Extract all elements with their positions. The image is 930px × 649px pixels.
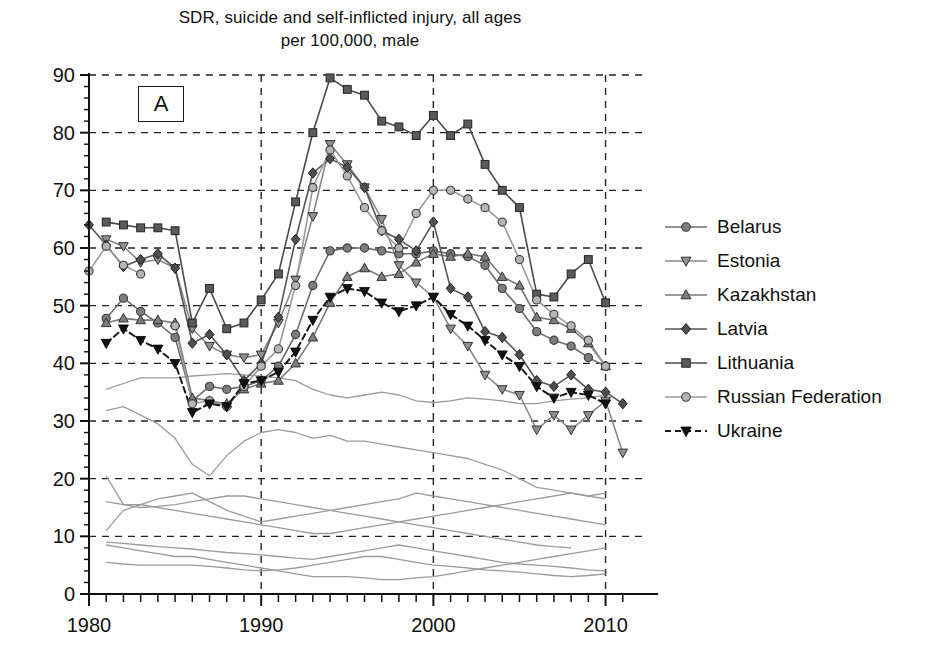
marker-circle: [481, 261, 489, 269]
legend-item-lithuania[interactable]: Lithuania: [663, 346, 925, 380]
datapoint-russian-federation-2007: [550, 310, 558, 318]
datapoint-russian-federation-1995: [343, 172, 351, 180]
datapoint-russian-federation-2006: [533, 296, 541, 304]
legend-label: Kazakhstan: [717, 284, 816, 306]
marker-circle: [550, 336, 558, 344]
marker-triangle-up: [342, 272, 352, 281]
datapoint-kazakhstan-1982: [119, 313, 129, 322]
marker-triangle-up: [394, 269, 404, 278]
legend-key-svg: [663, 285, 709, 305]
panel-label-text: A: [154, 91, 169, 117]
marker-circle-light: [412, 209, 420, 217]
legend-item-kazakhstan[interactable]: Kazakhstan: [663, 278, 925, 312]
legend-marker-glyph: [681, 324, 690, 335]
datapoint-estonia-2005: [515, 391, 525, 400]
datapoint-lithuania-1988: [223, 325, 231, 333]
marker-square: [188, 319, 196, 327]
legend-marker-glyph: [682, 223, 691, 232]
datapoint-lithuania-1994: [326, 74, 334, 82]
marker-circle: [360, 244, 368, 252]
datapoint-russian-federation-1990: [257, 362, 265, 370]
marker-circle-light: [171, 322, 179, 330]
marker-diamond: [291, 234, 300, 244]
legend-label: Ukraine: [717, 420, 782, 442]
marker-diamond: [618, 399, 627, 409]
marker-triangle-down-filled: [101, 339, 111, 348]
background-line-8: [106, 545, 605, 580]
marker-circle: [205, 382, 213, 390]
datapoint-kazakhstan-1993: [308, 332, 318, 341]
datapoint-latvia-2002: [463, 292, 472, 302]
datapoint-russian-federation-1997: [378, 227, 386, 235]
legend-item-russian-federation[interactable]: Russian Federation: [663, 380, 925, 414]
marker-square: [343, 86, 351, 94]
datapoint-kazakhstan-1996: [360, 263, 370, 272]
datapoint-belarus-2007: [550, 336, 558, 344]
marker-triangle-up: [532, 312, 542, 321]
legend-item-belarus[interactable]: Belarus: [663, 210, 925, 244]
datapoint-belarus-1995: [343, 244, 351, 252]
x-tick-label-1990: 1990: [239, 614, 284, 636]
marker-square: [326, 74, 334, 82]
marker-triangle-up: [463, 249, 473, 258]
legend-marker-triangle-down-icon: [663, 251, 709, 271]
datapoint-russian-federation-1993: [309, 183, 317, 191]
marker-circle: [309, 281, 317, 289]
marker-triangle-down-filled: [153, 345, 163, 354]
datapoint-russian-federation-1992: [292, 281, 300, 289]
marker-circle: [343, 244, 351, 252]
legend-key-svg: [663, 421, 709, 441]
marker-circle-light: [292, 281, 300, 289]
marker-triangle-down: [308, 213, 318, 222]
datapoint-ukraine-1982: [118, 325, 128, 334]
datapoint-lithuania-1981: [102, 218, 110, 226]
legend-item-estonia[interactable]: Estonia: [663, 244, 925, 278]
x-tick-label-2000: 2000: [411, 614, 456, 636]
datapoint-latvia-2003: [481, 326, 490, 336]
marker-triangle-up: [515, 280, 525, 289]
legend-item-latvia[interactable]: Latvia: [663, 312, 925, 346]
datapoint-russian-federation-2000: [429, 186, 437, 194]
marker-triangle-up: [360, 263, 370, 272]
legend-item-ukraine[interactable]: Ukraine: [663, 414, 925, 448]
marker-square: [309, 129, 317, 137]
chart-legend: BelarusEstoniaKazakhstanLatviaLithuaniaR…: [663, 210, 925, 448]
marker-triangle-down-filled: [532, 383, 542, 392]
datapoint-lithuania-1984: [154, 224, 162, 232]
y-tick-label-10: 10: [53, 525, 75, 547]
y-tick-label-70: 70: [53, 179, 75, 201]
datapoint-latvia-2000: [429, 217, 438, 227]
marker-square: [584, 256, 592, 264]
datapoint-belarus-2004: [498, 284, 506, 292]
datapoint-lithuania-1990: [257, 296, 265, 304]
background-line-7: [106, 557, 605, 577]
datapoint-lithuania-2008: [567, 270, 575, 278]
datapoint-russian-federation-1981: [102, 242, 110, 250]
marker-square: [154, 224, 162, 232]
marker-circle: [223, 385, 231, 393]
marker-square: [137, 224, 145, 232]
marker-circle-light: [567, 322, 575, 330]
legend-marker-triangle-down-filled-icon: [663, 421, 709, 441]
datapoint-belarus-1987: [205, 382, 213, 390]
marker-triangle-down: [463, 342, 473, 351]
datapoint-lithuania-1993: [309, 129, 317, 137]
datapoint-lithuania-1995: [343, 86, 351, 94]
datapoint-russian-federation-2009: [584, 336, 592, 344]
y-tick-label-30: 30: [53, 410, 75, 432]
marker-circle-light: [257, 362, 265, 370]
y-tick-label-60: 60: [53, 237, 75, 259]
legend-key-svg: [663, 387, 709, 407]
marker-square: [395, 123, 403, 131]
datapoint-kazakhstan-1995: [342, 272, 352, 281]
datapoint-estonia-1993: [308, 213, 318, 222]
datapoint-ukraine-1985: [170, 360, 180, 369]
y-tick-label-40: 40: [53, 352, 75, 374]
marker-triangle-down: [532, 426, 542, 435]
marker-circle-light: [119, 261, 127, 269]
datapoint-ukraine-2004: [497, 351, 507, 360]
marker-circle-light: [464, 195, 472, 203]
marker-diamond: [446, 283, 455, 293]
datapoint-latvia-2011: [618, 399, 627, 409]
datapoint-lithuania-2003: [481, 160, 489, 168]
